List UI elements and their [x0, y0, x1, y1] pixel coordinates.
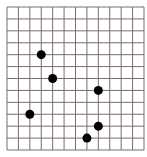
grid-point [37, 50, 46, 59]
grid-point [94, 86, 103, 95]
dot-grid-diagram [0, 0, 147, 157]
grid-point [82, 134, 91, 143]
grid-point [94, 122, 103, 131]
grid-point [48, 74, 57, 83]
grid-point [25, 110, 34, 119]
grid-lines [7, 7, 144, 150]
